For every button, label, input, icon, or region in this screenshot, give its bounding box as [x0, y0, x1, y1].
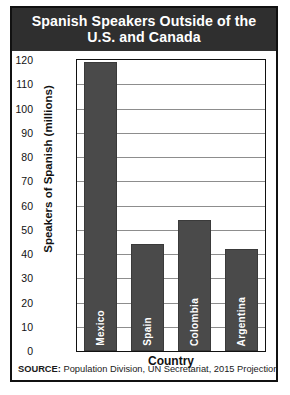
y-axis-tick-label: 120 [10, 54, 33, 66]
bar-argentina: Argentina [225, 249, 258, 351]
y-axis-title: Speakers of Spanish (millions) [42, 49, 54, 289]
bar-colombia: Colombia [178, 220, 211, 351]
bar-label-spain: Spain [142, 317, 153, 346]
source-label: SOURCE: [18, 364, 61, 374]
bar-label-mexico: Mexico [95, 310, 106, 346]
y-axis-tick-label: 90 [10, 127, 33, 139]
chart-body: Speakers of Spanish (millions) 010203040… [12, 51, 276, 361]
bar-spain: Spain [131, 244, 164, 351]
bar-label-colombia: Colombia [189, 298, 200, 346]
chart-title: Spanish Speakers Outside of the U.S. and… [12, 8, 276, 51]
y-axis-tick-label: 30 [10, 272, 33, 284]
y-axis-tick-label: 40 [10, 248, 33, 260]
y-axis-tick-label: 20 [10, 297, 33, 309]
bar-mexico: Mexico [84, 62, 117, 351]
bar-series: MexicoSpainColombiaArgentina [77, 60, 265, 351]
source-text: Population Division, UN Secretariat, 201… [61, 364, 278, 374]
y-axis-tick-label: 50 [10, 224, 33, 236]
bar-label-argentina: Argentina [236, 297, 247, 346]
y-axis-tick-label: 70 [10, 175, 33, 187]
y-axis-tick-label: 110 [10, 78, 33, 90]
y-axis-tick-label: 10 [10, 321, 33, 333]
y-axis-tick-label: 80 [10, 151, 33, 163]
y-axis-tick-label: 60 [10, 200, 33, 212]
y-axis-tick-label: 0 [10, 345, 33, 357]
plot-area: 0102030405060708090100110120 MexicoSpain… [76, 59, 266, 352]
chart-title-line-1: Spanish Speakers Outside of the [18, 13, 270, 29]
chart-title-line-2: U.S. and Canada [18, 29, 270, 45]
y-axis-tick-label: 100 [10, 103, 33, 115]
chart-figure: Spanish Speakers Outside of the U.S. and… [10, 6, 278, 382]
source-note: SOURCE: Population Division, UN Secretar… [18, 364, 270, 374]
